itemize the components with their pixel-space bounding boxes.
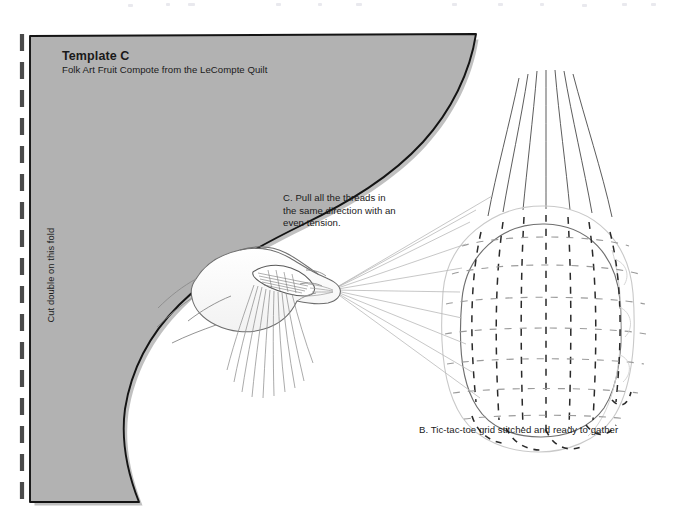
figure-b-illustration — [442, 70, 646, 452]
gather-stitch-scallops — [472, 392, 631, 450]
page-title: Template C — [62, 48, 129, 65]
figure-b-caption: B. Tic-tac-toe grid stitched and ready t… — [419, 424, 618, 437]
stitch-grid-vertical — [472, 215, 620, 431]
fabric-inner-edge — [461, 224, 622, 437]
fabric-outer-edge — [442, 206, 634, 452]
figure-c-caption: C. Pull all the threads in the same dire… — [283, 192, 396, 230]
pattern-sheet-page: Template C Folk Art Fruit Compote from t… — [0, 0, 675, 526]
page-subtitle: Folk Art Fruit Compote from the LeCompte… — [62, 64, 267, 77]
gathering-threads-top — [488, 70, 612, 217]
fabric-pucker-loops — [614, 259, 631, 382]
fold-instruction-label: Cut double on this fold — [45, 213, 57, 337]
pattern-artboard — [0, 0, 675, 526]
